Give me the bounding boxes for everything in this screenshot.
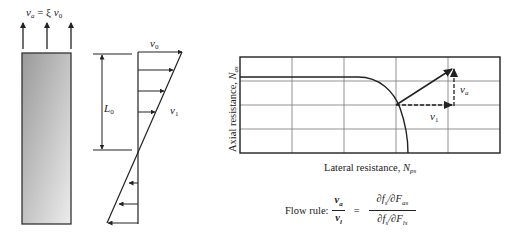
v0-label: v0: [150, 37, 159, 51]
resultant-vector-arrow-icon: [396, 69, 452, 105]
pile-velocity-label: va = ξ v0: [26, 6, 63, 20]
v1-component-label: v1: [430, 110, 439, 124]
equals-sign: =: [354, 205, 360, 216]
x-axis-label: Lateral resistance, Nps: [324, 162, 417, 175]
pile-body: [22, 53, 71, 224]
y-axis-label: Axial resistance, Nas: [227, 66, 240, 152]
chart-gridlines: [240, 57, 500, 153]
diagram-canvas: va = ξ v0 L0 v0 v1: [0, 0, 518, 240]
pile-group: va = ξ v0: [22, 6, 71, 224]
lhs-numerator: va: [332, 194, 344, 210]
interaction-chart: va v1 Axial resistance, Nas Lateral resi…: [227, 57, 500, 175]
rhs-fraction: ∂fs/∂Fas ∂fs/∂Fls: [369, 193, 417, 226]
yield-surface-curve: [240, 77, 408, 153]
rhs-numerator: ∂fs/∂Fas: [369, 193, 417, 210]
flow-rule-label: Flow rule:: [285, 205, 328, 216]
profile-line: [107, 52, 182, 223]
velocity-profile-group: L0 v0 v1: [93, 37, 182, 224]
rhs-denominator: ∂fs/∂Fls: [369, 211, 415, 227]
v1-label: v1: [170, 104, 179, 118]
flow-rule-formula: Flow rule: va vl = ∂fs/∂Fas ∂fs/∂Fls: [285, 188, 420, 232]
length-label: L0: [103, 102, 114, 116]
lhs-denominator: vl: [333, 211, 344, 226]
lhs-fraction: va vl: [332, 194, 344, 225]
va-label: va: [460, 83, 469, 97]
